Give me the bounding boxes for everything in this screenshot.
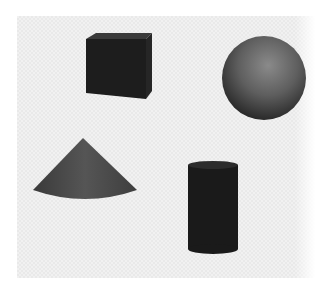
cylinder-shape [186,159,242,255]
sphere-shape [220,34,308,122]
cube-shape [82,33,154,101]
cone-shape [31,136,139,206]
